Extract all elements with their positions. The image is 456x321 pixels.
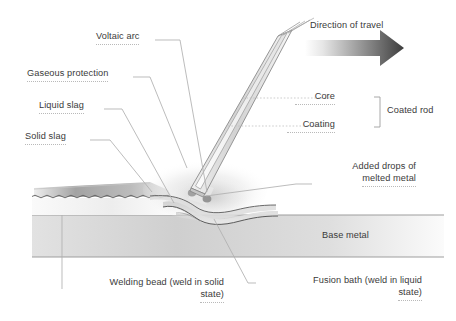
label-fusion-bath: Fusion bath (weld in liquid state) [262,275,422,301]
label-coating: Coating [287,119,335,133]
label-direction-of-travel: Direction of travel [310,20,383,32]
added-drops-line-1: Added drops of [352,161,416,171]
added-drops-line-2: melted metal [362,173,416,187]
label-voltaic-arc: Voltaic arc [96,31,139,45]
direction-of-travel-arrow [305,30,404,66]
label-solid-slag: Solid slag [25,131,66,145]
fusion-bath-line-1: Fusion bath (weld in liquid [313,275,422,285]
label-liquid-slag: Liquid slag [39,100,84,114]
label-base-metal: Base metal [322,230,369,242]
fusion-bath-line-2: state) [398,287,422,301]
coated-electrode-rod [190,18,314,197]
welding-bead-line-2: state) [200,289,224,303]
label-welding-bead: Welding bead (weld in solid state) [68,277,224,303]
label-added-drops: Added drops of melted metal [310,161,416,187]
coated-rod-bracket [374,97,380,127]
label-gaseous-protection: Gaseous protection [27,68,108,82]
label-core: Core [295,91,335,105]
label-coated-rod: Coated rod [387,105,433,117]
diagram-canvas: Voltaic arc Gaseous protection Liquid sl… [0,0,456,321]
welding-bead-line-1: Welding bead (weld in solid [110,277,224,287]
